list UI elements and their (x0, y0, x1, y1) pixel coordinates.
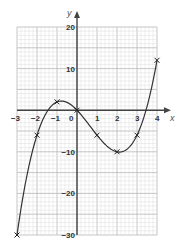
x-tick-label: −2 (31, 114, 41, 123)
x-tick-label: −3 (11, 114, 21, 123)
cubic-graph: xy −3−2−1012342010−10−20−30 (0, 0, 181, 251)
y-tick-label: −30 (61, 231, 75, 240)
x-tick-label: 3 (135, 114, 140, 123)
x-tick-label: 0 (69, 114, 74, 123)
y-tick-label: 10 (66, 65, 75, 74)
x-tick-label: 4 (155, 114, 160, 123)
x-tick-label: 2 (115, 114, 120, 123)
plot-area: xy −3−2−1012342010−10−20−30 (0, 0, 181, 251)
y-axis-arrow-icon (74, 11, 80, 18)
x-tick-label: 1 (95, 114, 100, 123)
y-axis-label: y (66, 8, 72, 18)
y-tick-label: −20 (61, 189, 75, 198)
x-axis-label: x (169, 113, 175, 123)
y-tick-label: −10 (61, 148, 75, 157)
y-tick-label: 20 (66, 23, 75, 32)
x-tick-label: −1 (51, 114, 61, 123)
